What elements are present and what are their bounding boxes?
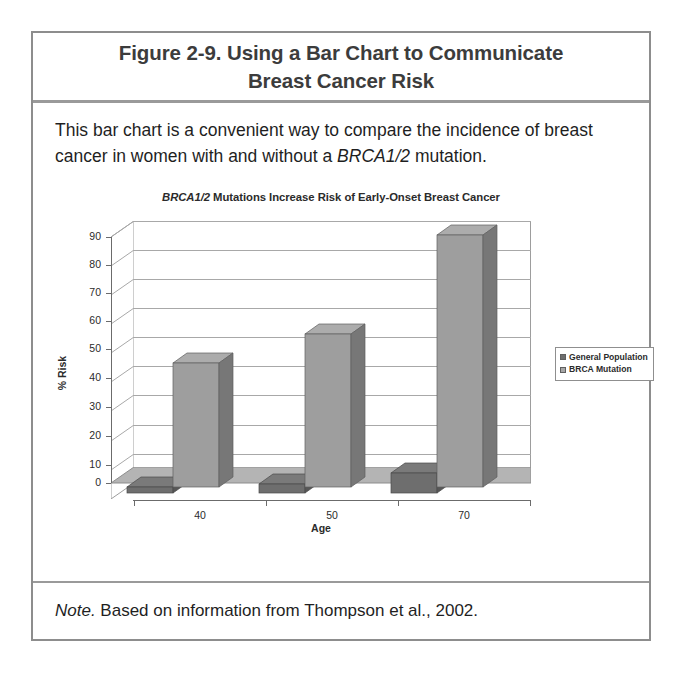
chart-title: BRCA1/2 Mutations Increase Risk of Early… [91,191,571,203]
legend-label-general-population: General Population [569,351,648,363]
note-label: Note. [55,601,96,620]
y-tick-mark-80 [106,265,111,266]
plot-box-3d: 90 80 70 60 50 40 30 20 [111,221,531,499]
figure-title: Figure 2-9. Using a Bar Chart to Communi… [95,39,587,93]
y-tick-label-20: 20 [71,429,101,441]
y-tick-mark-10 [106,465,111,466]
y-tick-mark-70 [106,293,111,294]
y-tick-label-80: 80 [71,258,101,270]
gridline-diag-80 [111,250,134,267]
y-tick-mark-90 [106,237,111,238]
y-tick-label-60: 60 [71,314,101,326]
gridline-diag-70 [111,279,134,296]
gridline-diag-40 [111,366,134,383]
x-tick-mark-2 [398,500,399,506]
figure-frame: Figure 2-9. Using a Bar Chart to Communi… [31,31,651,641]
x-tick-label-50: 50 [310,509,354,521]
x-tick-mark-end [530,500,531,506]
y-axis-label: % Risk [56,328,68,418]
figure-caption: This bar chart is a convenient way to co… [55,117,633,170]
y-tick-mark-60 [106,321,111,322]
legend-label-brca-mutation: BRCA Mutation [569,363,632,375]
x-tick-mark-1 [266,500,267,506]
y-tick-mark-0 [106,483,111,484]
figure-title-line-1: Figure 2-9. Using a Bar Chart to Communi… [119,41,563,64]
gridline-diag-60 [111,308,134,325]
plot-area: % Risk [39,217,647,547]
chart-title-rest: Mutations Increase Risk of Early-Onset B… [210,191,500,203]
figure-title-line-2: Breast Cancer Risk [248,69,434,92]
y-tick-mark-30 [106,407,111,408]
chart-title-gene-name: BRCA1/2 [162,191,210,203]
legend-swatch-general-population [560,354,566,360]
chart-region: BRCA1/2 Mutations Increase Risk of Early… [39,191,647,561]
figure-title-band: Figure 2-9. Using a Bar Chart to Communi… [33,33,649,103]
y-tick-label-90: 90 [71,230,101,242]
figure-page: Figure 2-9. Using a Bar Chart to Communi… [0,0,683,673]
y-tick-label-10: 10 [71,458,101,470]
gridline-diag-90 [111,221,134,238]
note-body: Based on information from Thompson et al… [96,601,478,620]
caption-text-part-2: mutation. [410,146,487,166]
caption-text-part-1: This bar chart is a convenient way to co… [55,120,593,166]
y-axis-line [111,237,112,483]
y-tick-label-50: 50 [71,342,101,354]
bar-brca-mutation-70 [437,221,509,494]
x-axis-label: Age [111,522,531,534]
chart-legend: General Population BRCA Mutation [555,347,654,381]
y-tick-mark-50 [106,349,111,350]
legend-swatch-brca-mutation [560,367,566,373]
x-axis-line [133,500,531,501]
y-tick-mark-40 [106,378,111,379]
gridline-diag-20 [111,425,134,442]
legend-item-general-population: General Population [560,351,648,363]
x-tick-mark-start [134,500,135,506]
gridline-diag-50 [111,337,134,354]
legend-item-brca-mutation: BRCA Mutation [560,363,648,375]
y-tick-mark-20 [106,436,111,437]
y-tick-label-0: 0 [71,476,101,488]
figure-note: Note. Based on information from Thompson… [33,601,478,621]
bar-brca-mutation-40 [173,349,245,494]
x-tick-label-70: 70 [442,509,486,521]
gridline-diag-30 [111,395,134,412]
y-tick-label-70: 70 [71,286,101,298]
caption-gene-name: BRCA1/2 [337,146,410,166]
bar-brca-mutation-50 [305,320,377,494]
x-tick-label-40: 40 [178,509,222,521]
y-tick-label-30: 30 [71,400,101,412]
y-tick-label-40: 40 [71,371,101,383]
figure-note-band: Note. Based on information from Thompson… [33,581,649,639]
